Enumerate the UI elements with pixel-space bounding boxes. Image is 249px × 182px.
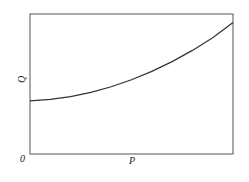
plot-frame — [30, 14, 233, 154]
x-axis-label: P — [128, 155, 135, 166]
y-axis-label: Q — [16, 75, 27, 83]
origin-label: 0 — [20, 153, 25, 164]
chart: 0 P Q — [0, 0, 249, 182]
data-curve — [30, 22, 233, 100]
